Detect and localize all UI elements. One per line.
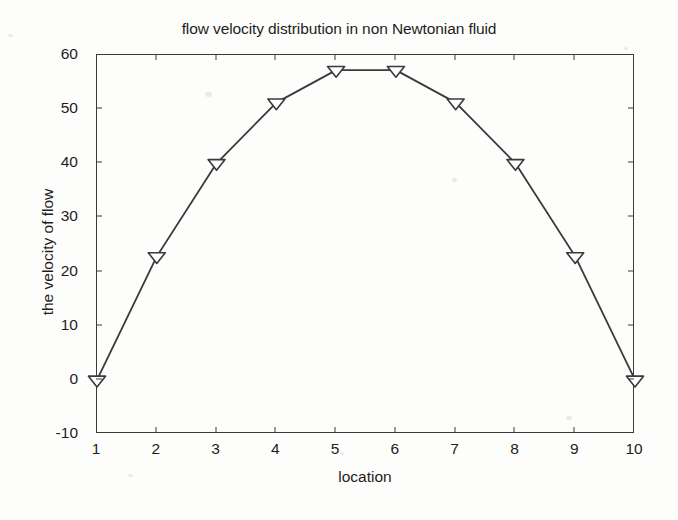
series-line <box>97 70 635 380</box>
x-tick-mark <box>394 427 395 433</box>
y-tick-mark <box>96 270 102 271</box>
y-tick-label: -10 <box>56 424 78 442</box>
x-tick-mark <box>215 54 216 60</box>
data-point-marker <box>567 253 584 264</box>
x-axis-label: location <box>96 468 634 486</box>
plot-area <box>96 54 634 433</box>
x-tick-label: 9 <box>570 440 579 458</box>
x-tick-mark <box>574 427 575 433</box>
data-point-marker <box>208 160 225 171</box>
x-tick-mark <box>335 54 336 60</box>
series-plot <box>97 55 635 434</box>
data-point-marker <box>387 66 404 77</box>
x-tick-label: 3 <box>211 440 220 458</box>
x-tick-label: 2 <box>151 440 160 458</box>
y-tick-mark <box>628 270 634 271</box>
y-axis-label: the velocity of flow <box>39 112 57 392</box>
x-tick-mark <box>155 427 156 433</box>
y-tick-mark <box>628 108 634 109</box>
y-tick-mark <box>96 108 102 109</box>
x-tick-label: 8 <box>510 440 519 458</box>
data-point-marker <box>328 66 345 77</box>
x-tick-mark <box>275 427 276 433</box>
y-tick-label: 30 <box>61 207 78 225</box>
y-tick-mark <box>96 378 102 379</box>
y-tick-mark <box>628 378 634 379</box>
y-tick-label: 50 <box>61 99 78 117</box>
x-tick-mark <box>514 54 515 60</box>
x-tick-mark <box>215 427 216 433</box>
x-tick-label: 10 <box>625 440 642 458</box>
y-tick-mark <box>628 324 634 325</box>
y-tick-label: 60 <box>61 45 78 63</box>
x-tick-mark <box>454 427 455 433</box>
y-tick-mark <box>96 324 102 325</box>
x-tick-mark <box>574 54 575 60</box>
x-tick-label: 4 <box>271 440 280 458</box>
data-point-marker <box>507 160 524 171</box>
x-tick-mark <box>275 54 276 60</box>
y-tick-label: 10 <box>61 316 78 334</box>
y-tick-mark <box>628 216 634 217</box>
x-tick-label: 6 <box>391 440 400 458</box>
figure-canvas: flow velocity distribution in non Newton… <box>0 0 678 520</box>
y-tick-mark <box>96 216 102 217</box>
x-tick-mark <box>514 427 515 433</box>
x-tick-label: 5 <box>331 440 340 458</box>
y-tick-mark <box>628 162 634 163</box>
y-tick-label: 0 <box>69 370 78 388</box>
y-tick-mark <box>96 162 102 163</box>
chart-title: flow velocity distribution in non Newton… <box>0 20 678 38</box>
x-tick-mark <box>454 54 455 60</box>
data-point-marker <box>148 253 165 264</box>
x-tick-mark <box>394 54 395 60</box>
x-tick-label: 7 <box>450 440 459 458</box>
y-tick-label: 20 <box>61 262 78 280</box>
x-tick-mark <box>335 427 336 433</box>
x-tick-mark <box>155 54 156 60</box>
x-tick-label: 1 <box>92 440 101 458</box>
y-tick-label: 40 <box>61 153 78 171</box>
